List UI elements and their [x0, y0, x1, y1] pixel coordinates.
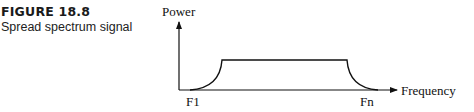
x-axis-label: Frequency — [401, 83, 456, 98]
fn-label: Fn — [360, 94, 374, 109]
signal-curve — [190, 60, 378, 90]
f1-label: F1 — [186, 94, 200, 109]
y-axis-label: Power — [162, 4, 196, 19]
spectrum-diagram: Power Frequency F1 Fn — [0, 0, 474, 112]
